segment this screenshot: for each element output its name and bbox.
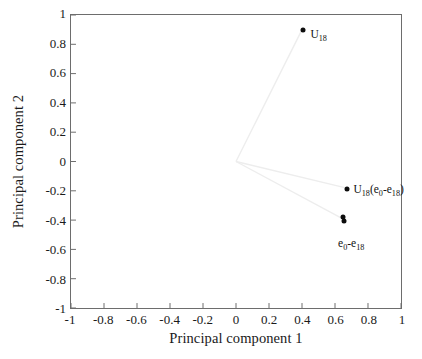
x-axis-tick-labels: -1-0.8-0.6-0.4-0.200.20.40.60.81 [70, 312, 402, 330]
y-tick-label: -0.2 [26, 183, 66, 199]
x-tick-label: 1 [380, 312, 422, 328]
y-axis-tick-labels: 10.80.60.40.20-0.2-0.4-0.6-0.8-1 [22, 14, 66, 309]
y-tick-label: 0.8 [26, 36, 66, 52]
y-tick-label: 0.2 [26, 124, 66, 140]
y-tick-label: 1 [26, 6, 66, 22]
data-point-marker [345, 187, 350, 192]
y-tick-label: 0.4 [26, 95, 66, 111]
loading-vector [236, 162, 346, 188]
y-tick-label: 0.6 [26, 65, 66, 81]
pca-scatter-figure: U18U18(e0-e18)e0-e18 10.80.60.40.20-0.2-… [0, 0, 422, 359]
plot-area: U18U18(e0-e18)e0-e18 [70, 14, 402, 309]
data-point-label: e0-e18 [338, 238, 364, 250]
y-axis-title: Principal component 2 [10, 14, 28, 309]
data-point-label: U18(e0-e18) [353, 184, 404, 196]
vector-layer [71, 15, 401, 308]
x-axis-title: Principal component 1 [70, 330, 402, 347]
loading-vector [236, 30, 302, 162]
y-tick-label: -0.6 [26, 242, 66, 258]
loading-vectors [236, 30, 346, 219]
data-point-marker [301, 27, 306, 32]
data-point-marker [342, 218, 347, 223]
data-point-label: U18 [310, 29, 327, 41]
y-tick-label: 0 [26, 154, 66, 170]
loading-vector [236, 162, 342, 219]
y-tick-label: -0.4 [26, 213, 66, 229]
y-tick-label: -0.8 [26, 272, 66, 288]
